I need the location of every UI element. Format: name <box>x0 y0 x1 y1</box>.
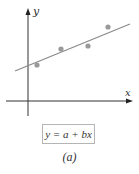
caption-text: (a) <box>63 150 77 164</box>
equation-box: y = a + bx <box>42 124 95 144</box>
data-point <box>105 24 110 29</box>
data-point <box>85 43 90 48</box>
data-point <box>58 46 63 51</box>
fit-line <box>15 24 130 71</box>
scatter-plot <box>0 0 139 174</box>
y-axis-label: y <box>33 6 39 17</box>
x-axis-arrow-icon <box>126 99 133 104</box>
y-axis-arrow-icon <box>26 8 31 15</box>
x-axis-label: x <box>125 88 131 98</box>
figure-caption: (a) <box>0 150 139 165</box>
equation-text: y = a + bx <box>45 128 92 140</box>
data-point <box>34 62 39 67</box>
